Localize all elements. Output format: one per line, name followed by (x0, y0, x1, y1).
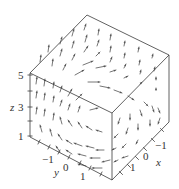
tick-label: 5 (18, 69, 24, 81)
axis-tick (119, 171, 123, 175)
arrowhead-icon (96, 149, 98, 151)
arrowhead-icon (149, 124, 151, 126)
cube-edge (112, 55, 169, 113)
arrowhead-icon (140, 114, 142, 116)
arrowhead-icon (122, 156, 124, 158)
x-axis: −101x (119, 128, 167, 175)
tick-label: 0 (63, 161, 69, 173)
z-axis: 531z (9, 69, 33, 142)
arrowhead-icon (155, 88, 157, 90)
arrowhead-icon (96, 130, 98, 132)
tick-label: 1 (80, 170, 86, 182)
arrowhead-icon (137, 128, 139, 130)
arrowhead-icon (118, 122, 120, 124)
arrowhead-icon (114, 70, 116, 72)
cube-edge (112, 122, 169, 180)
tick-label: 3 (18, 101, 24, 113)
cube-edge (87, 15, 169, 55)
tick-label: −1 (155, 139, 167, 151)
arrowhead-icon (78, 106, 80, 108)
vector-field-plot: 531z −101y −101x (0, 0, 179, 189)
tick-label: 1 (130, 161, 136, 173)
arrowhead-icon (92, 167, 94, 169)
arrowhead-icon (152, 110, 154, 112)
arrowhead-icon (84, 24, 86, 26)
arrowhead-icon (68, 104, 70, 106)
axis-label: z (9, 101, 15, 113)
vector-arrows (36, 24, 161, 169)
arrowhead-icon (126, 132, 128, 134)
tick-label: 1 (18, 130, 24, 142)
arrowhead-icon (90, 157, 92, 159)
tick-label: −1 (42, 153, 54, 165)
cube-edge (30, 15, 87, 73)
arrowhead-icon (129, 118, 131, 120)
arrowhead-icon (155, 77, 157, 79)
axis-tick (135, 156, 139, 160)
arrowhead-icon (98, 81, 100, 83)
arrowhead-icon (60, 100, 62, 102)
axis-label: y (53, 166, 59, 178)
arrowhead-icon (158, 122, 160, 124)
axis-label: x (155, 156, 161, 168)
arrowhead-icon (97, 40, 99, 42)
tick-label: 0 (143, 150, 149, 162)
cube-edge (30, 73, 112, 113)
